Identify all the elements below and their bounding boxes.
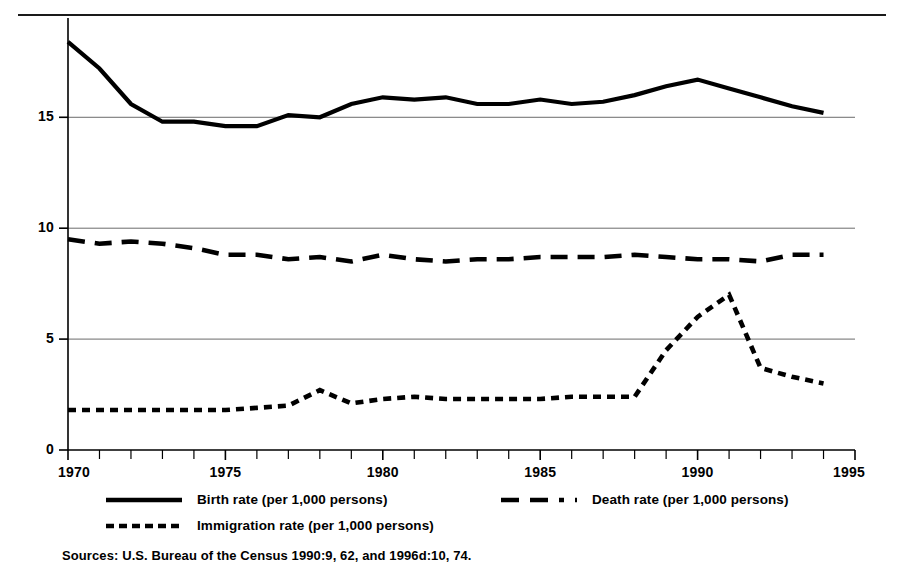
y-tick-label-5: 5: [14, 330, 54, 346]
figure-container: 051015 197019751980198519901995 Birth ra…: [0, 0, 900, 584]
data-series-layer: [68, 42, 824, 410]
legend-swatch-dashed-icon: [500, 493, 578, 507]
legend-label-birth-rate: Birth rate (per 1,000 persons): [197, 492, 388, 507]
series-line-birth-rate: [68, 42, 824, 126]
x-tick-label-1970: 1970: [44, 464, 104, 480]
x-axis-ticks: [68, 450, 855, 460]
x-tick-label-1985: 1985: [510, 464, 570, 480]
legend-swatch-solid-icon: [105, 493, 183, 507]
legend-item-death-rate: Death rate (per 1,000 persons): [500, 492, 789, 507]
x-tick-label-1975: 1975: [195, 464, 255, 480]
x-tick-label-1990: 1990: [668, 464, 728, 480]
sources-note: Sources: U.S. Bureau of the Census 1990:…: [62, 548, 472, 563]
legend-label-death-rate: Death rate (per 1,000 persons): [592, 492, 789, 507]
x-tick-label-1980: 1980: [353, 464, 413, 480]
series-line-death-rate: [68, 239, 824, 261]
y-tick-label-15: 15: [14, 108, 54, 124]
legend-item-birth-rate: Birth rate (per 1,000 persons): [105, 492, 388, 507]
chart-axes: [68, 18, 855, 450]
legend-item-immigration-rate: Immigration rate (per 1,000 persons): [105, 518, 434, 533]
legend-swatch-dotted-icon: [105, 519, 183, 533]
x-tick-label-1995: 1995: [819, 464, 879, 480]
legend-label-immigration-rate: Immigration rate (per 1,000 persons): [197, 518, 434, 533]
y-tick-label-0: 0: [14, 441, 54, 457]
line-chart-plot: [0, 0, 900, 470]
y-axis-ticks: [59, 117, 68, 450]
chart-legend: Birth rate (per 1,000 persons) Immigrati…: [0, 492, 900, 552]
gridlines: [68, 117, 855, 339]
series-line-immigration-rate: [68, 295, 824, 410]
y-tick-label-10: 10: [14, 219, 54, 235]
